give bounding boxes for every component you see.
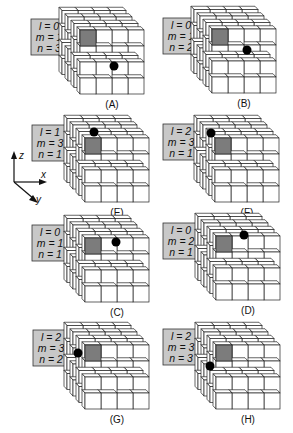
x-axis-label: x (40, 169, 47, 180)
y-axis-label: y (35, 194, 42, 205)
quantum-number-n: n = 1 (38, 148, 62, 160)
node-dot (207, 129, 216, 138)
highlighted-cell (80, 30, 96, 46)
cubic-lattice (64, 115, 149, 202)
node-dot (243, 46, 252, 55)
panel-caption: (D) (241, 305, 255, 316)
highlighted-cell (215, 138, 231, 154)
quantum-number-n: n = 2 (169, 41, 193, 53)
lattice-mode-diagram: z x y l = 0m = 1n = 3(A)l = 0m = 1n = 2(… (0, 0, 293, 433)
panel-e: l = 1m = 3n = 1(E) (32, 115, 149, 218)
cubic-lattice (195, 213, 280, 300)
node-dot (90, 128, 99, 137)
panel-caption: (B) (237, 98, 250, 109)
quantum-number-n: n = 2 (39, 353, 63, 365)
node-dot (240, 231, 249, 240)
node-dot (206, 362, 215, 371)
cubic-lattice (64, 322, 149, 409)
panel-caption: (G) (110, 414, 124, 425)
quantum-number-n: n = 1 (38, 248, 62, 260)
quantum-number-n: n = 1 (169, 246, 193, 258)
panel-b: l = 0m = 1n = 2(B) (163, 6, 276, 109)
panel-d: l = 0m = 2n = 1(D) (163, 213, 280, 316)
panel-c: l = 0m = 1n = 1(C) (32, 215, 149, 318)
quantum-number-n: n = 3 (169, 352, 193, 364)
highlighted-cell (85, 238, 101, 254)
cubic-lattice (59, 7, 144, 94)
node-dot (74, 349, 83, 358)
panel-caption: (H) (241, 414, 255, 425)
panel-caption: (C) (110, 307, 124, 318)
quantum-number-n: n = 1 (169, 147, 193, 159)
highlighted-cell (85, 138, 101, 154)
panel-caption: (A) (105, 99, 118, 110)
panel-f: l = 2m = 3n = 1(F) (163, 115, 279, 218)
panel-g: l = 2m = 3n = 2(G) (33, 322, 149, 425)
z-axis-label: z (18, 150, 24, 161)
cubic-lattice (191, 6, 276, 93)
node-dot (110, 62, 119, 71)
quantum-number-n: n = 3 (37, 42, 61, 54)
panel-a: l = 0m = 1n = 3(A) (31, 7, 144, 110)
highlighted-cell (85, 345, 101, 361)
cubic-lattice (64, 215, 149, 302)
node-dot (112, 238, 121, 247)
highlighted-cell (216, 345, 232, 361)
highlighted-cell (216, 236, 232, 252)
highlighted-cell (212, 29, 228, 45)
cubic-lattice (194, 115, 279, 202)
panel-h: l = 2m = 3n = 3(H) (163, 322, 280, 425)
